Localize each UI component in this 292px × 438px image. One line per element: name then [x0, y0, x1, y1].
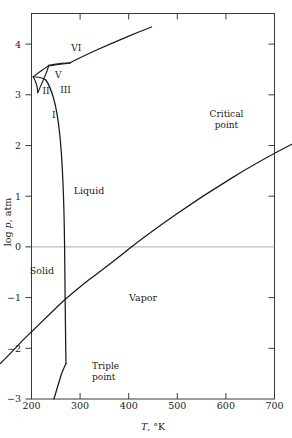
y-tick-label-4: 1 [15, 191, 21, 202]
phase-label-ice-II: II [43, 86, 51, 96]
region-labels: Liquid Solid Vapor [30, 185, 158, 303]
region-label-liquid: Liquid [74, 185, 105, 196]
plot-frame [32, 14, 275, 400]
phase-label-ice-VI: VI [70, 43, 81, 53]
y-tick-label-5: 2 [15, 140, 21, 151]
phase-label-ice-I: I [52, 110, 56, 120]
chart-svg: 200 300 400 500 600 700 −3 −2 −1 0 1 2 3… [0, 0, 292, 438]
region-label-solid: Solid [30, 265, 54, 276]
y-axis-ticks-right [269, 44, 275, 348]
y-axis-title: log p, atm [2, 198, 13, 246]
y-axis-title-log: log [2, 228, 13, 246]
annotation-triple-point-line-2: point [92, 372, 116, 382]
svg-text:log p, atm: log p, atm [2, 198, 13, 246]
annotation-triple-point: Triple point [92, 361, 119, 382]
y-axis-title-unit: , atm [2, 198, 13, 223]
annotation-critical-point-line-2: point [215, 120, 239, 130]
x-axis-title-unit: °K [153, 421, 166, 432]
y-tick-label-3: 0 [15, 241, 21, 252]
y-axis-ticks [26, 44, 32, 399]
x-axis-tick-labels: 200 300 400 500 600 700 [22, 400, 283, 411]
fusion-curve-ice-I [46, 80, 66, 364]
svg-text:T, °K: T, °K [141, 421, 166, 432]
y-tick-label-2: −1 [7, 292, 21, 303]
phase-diagram-figure: 200 300 400 500 600 700 −3 −2 −1 0 1 2 3… [0, 0, 292, 438]
y-tick-label-7: 4 [15, 39, 21, 50]
x-tick-label-2: 400 [120, 400, 138, 411]
x-axis-ticks [32, 393, 275, 399]
x-tick-label-5: 700 [265, 400, 283, 411]
ice-polymorph-labels: I II III V VI [43, 43, 82, 121]
annotation-critical-point-line-1: Critical [210, 109, 244, 119]
region-label-vapor: Vapor [128, 292, 157, 303]
phase-label-ice-V: V [54, 70, 62, 80]
ice-VI-liquid-boundary [70, 27, 152, 63]
x-tick-label-4: 600 [217, 400, 235, 411]
annotation-triple-point-line-1: Triple [92, 361, 119, 371]
x-tick-label-1: 300 [71, 400, 89, 411]
annotation-critical-point: Critical point [210, 109, 244, 130]
sublimation-curve [54, 364, 66, 400]
y-tick-label-0: −3 [7, 393, 21, 404]
x-axis-ticks-top [80, 14, 226, 20]
x-tick-label-0: 200 [22, 400, 40, 411]
phase-label-ice-III: III [60, 85, 71, 95]
ice-II-ice-III-boundary [33, 77, 38, 93]
x-axis-title: T, °K [141, 421, 166, 432]
y-tick-label-6: 3 [15, 89, 21, 100]
x-tick-label-3: 500 [168, 400, 186, 411]
